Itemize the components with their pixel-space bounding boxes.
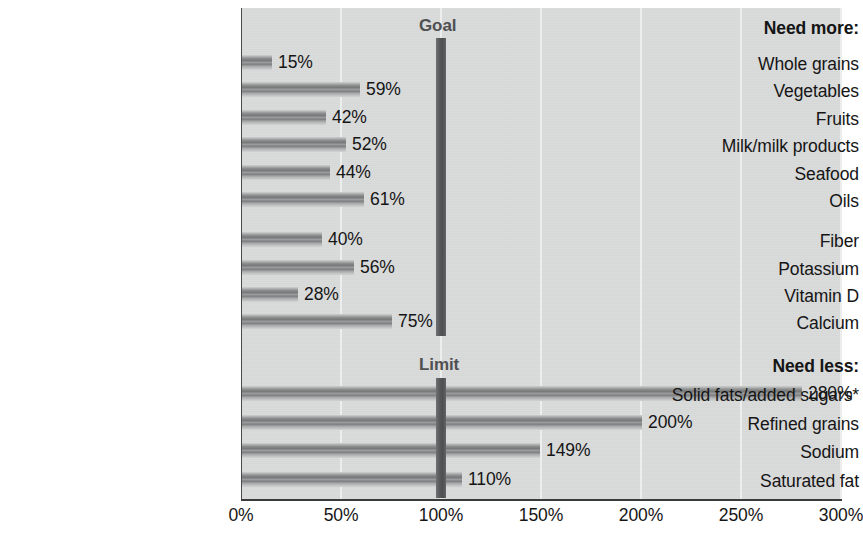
category-label-vegetables: Vegetables — [621, 82, 859, 101]
x-tick-150: 150% — [519, 505, 563, 525]
bar-value-oils: 61% — [370, 190, 405, 209]
x-tick-50: 50% — [324, 505, 359, 525]
bar-fruits — [242, 110, 326, 125]
bar-value-fruits: 42% — [332, 108, 367, 127]
bar-fiber — [242, 232, 322, 247]
limit-marker-bar — [436, 378, 446, 498]
bar-saturated-fat — [242, 472, 462, 487]
bar-value-calcium: 75% — [398, 312, 433, 331]
goal-marker-bar — [436, 38, 446, 336]
category-label-fruits: Fruits — [621, 110, 859, 129]
limit-marker-label: Limit — [419, 355, 459, 375]
category-label-fiber: Fiber — [621, 232, 859, 251]
x-tick-100: 100% — [419, 505, 463, 525]
bar-value-potassium: 56% — [360, 258, 395, 277]
category-label-potassium: Potassium — [621, 260, 859, 279]
group-heading-need-less: Need less: — [621, 357, 859, 376]
category-label-oils: Oils — [621, 192, 859, 211]
category-label-sodium: Sodium — [621, 443, 859, 462]
bar-value-sodium: 149% — [546, 441, 590, 460]
bar-value-seafood: 44% — [336, 163, 371, 182]
bar-value-milk-milk-products: 52% — [352, 135, 387, 154]
x-tick-200: 200% — [619, 505, 663, 525]
category-label-saturated-fat: Saturated fat — [621, 472, 859, 491]
category-label-whole-grains: Whole grains — [621, 55, 859, 74]
category-label-solid-fats-added-sugars: Solid fats/added sugars* — [621, 386, 859, 405]
category-label-seafood: Seafood — [621, 165, 859, 184]
group-heading-need-more: Need more: — [621, 19, 859, 38]
bar-oils — [242, 192, 364, 207]
bar-whole-grains — [242, 55, 272, 70]
bar-sodium — [242, 443, 540, 458]
x-tick-250: 250% — [719, 505, 763, 525]
bar-calcium — [242, 314, 392, 329]
bar-value-vegetables: 59% — [366, 80, 401, 99]
category-label-milk-milk-products: Milk/milk products — [621, 137, 859, 156]
bar-vegetables — [242, 82, 360, 97]
category-label-vitamin-d: Vitamin D — [621, 287, 859, 306]
bar-milk-milk-products — [242, 137, 346, 152]
bar-seafood — [242, 165, 330, 180]
category-label-calcium: Calcium — [621, 314, 859, 333]
goal-marker-label: Goal — [419, 16, 456, 36]
bar-value-fiber: 40% — [328, 230, 363, 249]
bar-value-whole-grains: 15% — [278, 53, 313, 72]
bar-value-vitamin-d: 28% — [304, 285, 339, 304]
x-tick-300: 300% — [819, 505, 863, 525]
bar-vitamin-d — [242, 287, 298, 302]
bar-value-saturated-fat: 110% — [468, 470, 511, 489]
bar-potassium — [242, 260, 354, 275]
x-tick-0: 0% — [228, 505, 253, 525]
x-axis-line — [241, 499, 842, 501]
category-label-refined-grains: Refined grains — [621, 415, 859, 434]
